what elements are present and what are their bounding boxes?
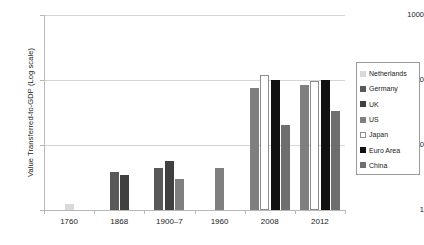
x-tick-mark <box>44 210 45 214</box>
bar-us-1960 <box>215 168 224 210</box>
legend-swatch-icon <box>360 117 366 123</box>
legend-item-japan[interactable]: Japan <box>360 127 419 142</box>
y-tick-label: 1000 <box>390 11 424 19</box>
legend-swatch-icon <box>360 162 366 168</box>
bar-japan-2012 <box>310 81 319 210</box>
bar-netherlands-1760 <box>65 204 74 210</box>
bar-uk-19007 <box>165 161 174 210</box>
legend-item-germany[interactable]: Germany <box>360 81 419 96</box>
x-tick-label: 2012 <box>290 218 350 226</box>
bar-us-2008 <box>250 88 259 210</box>
bar-us-2012 <box>300 85 309 210</box>
x-tick-mark <box>195 210 196 214</box>
legend-item-uk[interactable]: UK <box>360 97 419 112</box>
legend-item-label: US <box>369 116 379 123</box>
legend-item-netherlands[interactable]: Netherlands <box>360 66 419 81</box>
bars-layer <box>44 15 345 210</box>
x-tick-mark <box>295 210 296 214</box>
bar-chart: Value Transferred-to-GDP (Log scale) 100… <box>0 0 424 245</box>
legend-swatch-icon <box>360 86 366 92</box>
x-tick-mark <box>245 210 246 214</box>
bar-uk-1868 <box>120 175 129 210</box>
legend-swatch-icon <box>360 132 366 138</box>
x-tick-mark <box>144 210 145 214</box>
bar-china-2008 <box>281 125 290 210</box>
legend-item-china[interactable]: China <box>360 158 419 173</box>
legend-swatch-icon <box>360 147 366 153</box>
bar-germany-19007 <box>154 168 163 210</box>
legend-item-us[interactable]: US <box>360 112 419 127</box>
bar-germany-1868 <box>110 172 119 210</box>
x-tick-mark <box>94 210 95 214</box>
bar-us-19007 <box>175 179 184 210</box>
y-axis-title: Value Transferred-to-GDP (Log scale) <box>26 23 35 203</box>
legend-swatch-icon <box>360 101 366 107</box>
legend-item-label: Euro Area <box>369 147 400 154</box>
legend-item-label: UK <box>369 101 379 108</box>
bar-euroarea-2008 <box>271 80 280 210</box>
x-tick-mark <box>345 210 346 214</box>
legend-item-label: Germany <box>369 85 398 92</box>
legend-swatch-icon <box>360 71 366 77</box>
bar-china-2012 <box>331 111 340 210</box>
y-tick-label: 1 <box>390 206 424 214</box>
bar-euroarea-2012 <box>321 80 330 210</box>
legend-item-label: Japan <box>369 131 388 138</box>
legend-item-euroarea[interactable]: Euro Area <box>360 142 419 157</box>
legend-item-label: Netherlands <box>369 70 407 77</box>
legend: NetherlandsGermanyUKUSJapanEuro AreaChin… <box>356 62 420 175</box>
legend-item-label: China <box>369 162 387 169</box>
bar-japan-2008 <box>260 75 269 210</box>
